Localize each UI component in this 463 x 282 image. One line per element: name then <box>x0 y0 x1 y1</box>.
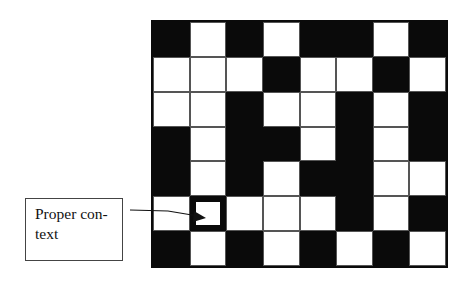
callout-text-line1: Proper con- <box>35 204 122 224</box>
black-cell <box>300 161 337 196</box>
black-cell <box>336 161 373 196</box>
black-cell <box>409 196 446 231</box>
white-cell <box>373 127 410 162</box>
white-cell <box>409 57 446 92</box>
black-cell <box>373 231 410 266</box>
white-cell <box>373 22 410 57</box>
white-cell <box>300 92 337 127</box>
callout-text-line2: text <box>35 224 122 244</box>
white-cell <box>153 57 190 92</box>
black-cell <box>300 22 337 57</box>
white-cell <box>300 196 337 231</box>
white-cell <box>409 231 446 266</box>
black-cell <box>336 92 373 127</box>
white-cell <box>409 161 446 196</box>
black-cell <box>226 127 263 162</box>
white-cell <box>300 127 337 162</box>
white-cell <box>153 196 190 231</box>
black-cell <box>153 231 190 266</box>
white-cell <box>263 196 300 231</box>
black-cell <box>226 92 263 127</box>
white-cell <box>263 92 300 127</box>
black-cell <box>409 127 446 162</box>
black-cell <box>263 57 300 92</box>
black-cell <box>153 127 190 162</box>
black-cell <box>409 22 446 57</box>
black-cell <box>226 22 263 57</box>
white-cell <box>263 231 300 266</box>
black-cell <box>226 231 263 266</box>
white-cell <box>153 92 190 127</box>
callout-label-box: Proper con- text <box>25 198 123 261</box>
white-cell <box>226 196 263 231</box>
white-cell <box>190 57 227 92</box>
white-cell <box>263 161 300 196</box>
black-cell <box>336 22 373 57</box>
black-cell <box>263 127 300 162</box>
black-cell <box>373 57 410 92</box>
white-cell <box>336 57 373 92</box>
white-cell <box>190 231 227 266</box>
crossword-grid <box>151 20 448 268</box>
black-cell <box>409 92 446 127</box>
white-cell <box>373 161 410 196</box>
black-cell <box>153 22 190 57</box>
black-cell <box>336 196 373 231</box>
black-cell <box>153 161 190 196</box>
white-cell <box>373 92 410 127</box>
white-cell <box>263 22 300 57</box>
black-cell <box>226 161 263 196</box>
white-cell <box>190 92 227 127</box>
white-cell <box>373 196 410 231</box>
white-cell <box>226 57 263 92</box>
white-cell <box>336 231 373 266</box>
white-cell <box>190 127 227 162</box>
black-cell <box>336 127 373 162</box>
black-cell <box>300 231 337 266</box>
white-cell <box>300 57 337 92</box>
highlighted-cell <box>190 196 227 231</box>
white-cell <box>190 22 227 57</box>
white-cell <box>190 161 227 196</box>
